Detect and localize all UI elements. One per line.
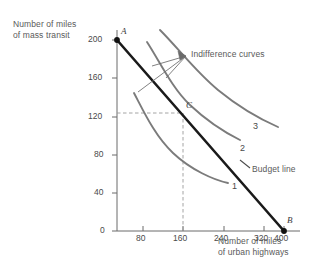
budget-line-annotation: Budget line [252,164,296,175]
y-axis-title: Number of miles of mass transit [13,19,76,40]
y-tick-label-160: 160 [88,73,102,82]
curve-label-3: 3 [253,121,258,131]
x-tick-label-80: 80 [136,234,145,243]
indifference-curves-annotation: Indifference curves [191,49,265,60]
curve-label-1: 1 [232,181,237,191]
budget-leader-line [240,160,250,168]
x-axis-ticks [143,226,284,231]
point-a-label: A [121,26,127,36]
point-b-label: B [287,215,293,225]
indifference-curve-3 [160,30,278,127]
x-tick-label-160: 160 [173,234,187,243]
y-tick-label-0: 0 [100,226,105,235]
y-axis-ticks [112,40,117,231]
y-tick-label-80: 80 [94,150,103,159]
budget-line [117,40,284,231]
indifference-arrowhead-icon [178,51,186,60]
x-tick-label-400: 400 [274,234,288,243]
point-a-marker [114,37,120,43]
y-tick-label-40: 40 [94,188,103,197]
indifference-curve-1 [134,93,228,183]
y-tick-label-120: 120 [88,112,102,121]
y-tick-label-200: 200 [88,35,102,44]
x-tick-label-240: 240 [214,234,228,243]
curve-label-2: 2 [240,143,245,153]
indifference-curve-chart: Number of miles of mass transit Number o… [0,0,316,264]
x-tick-label-320: 320 [254,234,268,243]
point-c-label: C [186,100,192,110]
